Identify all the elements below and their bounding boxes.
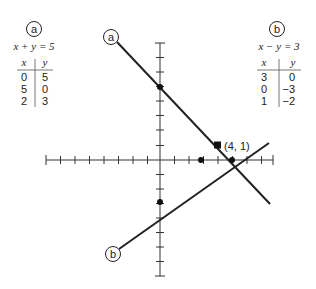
panel-b-cell: 3 <box>261 71 267 83</box>
panel-a-cell: 0 <box>21 71 27 83</box>
panel-b-cell: −2 <box>282 95 295 107</box>
panel-b: b x − y = 3 x y 3 0 0 −3 1 −2 <box>257 22 301 108</box>
panel-a-header-y: y <box>42 56 48 68</box>
line-b-label: b <box>110 248 116 260</box>
panel-b-cell: 1 <box>261 95 267 107</box>
axes <box>46 43 273 276</box>
point-a-y-intercept <box>157 84 163 90</box>
panel-a-equation: x + y = 5 <box>12 40 55 52</box>
panel-a-cell: 5 <box>42 71 48 83</box>
panel-a-cell: 0 <box>42 83 48 95</box>
panel-b-cell: 0 <box>261 83 267 95</box>
panel-a-label: a <box>31 23 38 35</box>
panel-a: a x + y = 5 x y 0 5 5 0 2 3 <box>12 22 55 108</box>
panel-b-cell: 0 <box>289 71 295 83</box>
panel-b-cell: −3 <box>282 83 295 95</box>
point-a-x-intercept <box>229 157 235 163</box>
panel-b-header-y: y <box>290 56 296 68</box>
panel-a-cell: 5 <box>21 83 27 95</box>
line-b <box>119 143 269 249</box>
line-a-label: a <box>108 31 115 43</box>
point-b-y-intercept <box>157 199 163 205</box>
panel-b-label: b <box>274 23 280 35</box>
panel-a-cell: 2 <box>21 95 27 107</box>
point-b-x-intercept <box>198 157 204 163</box>
panel-a-cell: 3 <box>42 95 48 107</box>
panel-b-equation: x − y = 3 <box>257 40 300 52</box>
panel-a-header-x: x <box>21 56 27 68</box>
panel-b-header-x: x <box>261 56 267 68</box>
intersection-label: (4, 1) <box>224 140 250 152</box>
line-a <box>117 42 270 204</box>
intersection-point <box>214 142 221 149</box>
diagram-canvas: a x + y = 5 x y 0 5 5 0 2 3 b x − y = 3 … <box>0 0 316 289</box>
